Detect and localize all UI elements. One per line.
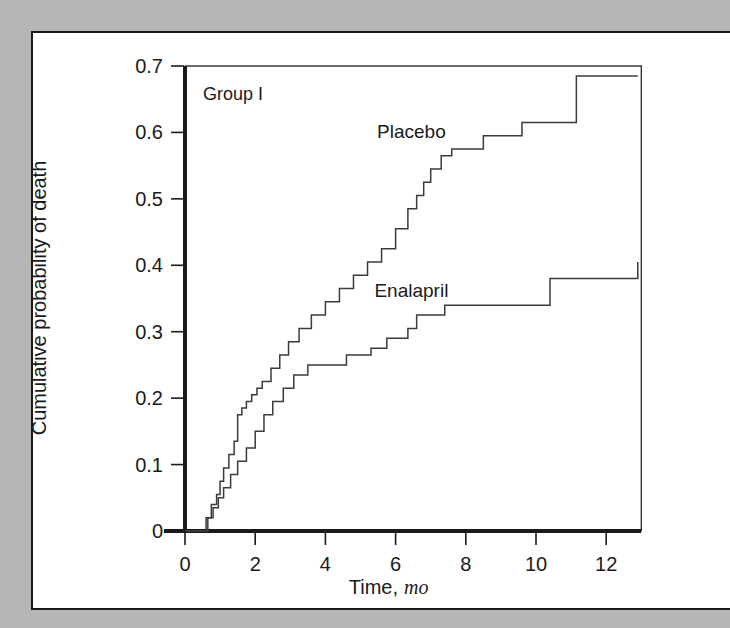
x-tick-label: 0 [179,553,190,575]
y-tick-label: 0.3 [135,321,163,343]
x-tick-labels: 024681012 [179,553,617,575]
x-tick-label: 8 [460,553,471,575]
y-tick-label: 0.2 [135,387,163,409]
x-axis-label-emphasis: mo [404,576,428,598]
x-tick-label: 12 [595,553,617,575]
x-axis-label-text: Time, [349,576,398,598]
y-tick-label: 0.5 [135,188,163,210]
y-tick-labels: 00.10.20.30.40.50.60.7 [135,55,163,542]
y-tick-label: 0.1 [135,454,163,476]
x-tick-label: 10 [525,553,547,575]
y-tick-label: 0.7 [135,55,163,77]
y-tick-label: 0.4 [135,254,163,276]
series-line [185,262,638,531]
series-label: Enalapril [374,280,448,301]
chart-svg: 024681012 00.10.20.30.40.50.60.7 Placebo… [0,0,730,628]
series-label: Placebo [377,121,446,142]
y-axis-label: Cumulative probability of death [28,161,50,436]
data-series [185,76,638,531]
series-labels: PlaceboEnalapril [374,121,448,301]
panel-label: Group I [203,84,263,104]
y-tick-label: 0.6 [135,121,163,143]
y-tick-label: 0 [152,520,163,542]
x-axis-label: Time, mo [349,576,429,598]
x-tick-label: 2 [250,553,261,575]
x-tick-label: 4 [320,553,331,575]
series-line [185,76,638,531]
x-tick-label: 6 [390,553,401,575]
kaplan-meier-chart: 024681012 00.10.20.30.40.50.60.7 Placebo… [0,0,730,628]
